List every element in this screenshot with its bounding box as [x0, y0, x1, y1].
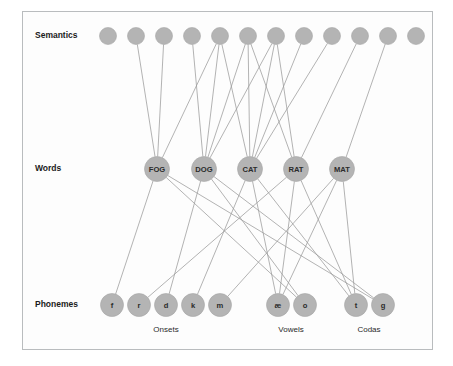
- edge-RAT-to-ae: [280, 181, 295, 293]
- edge-RAT-to-r: [148, 177, 287, 297]
- word-node-label-FOG: FOG: [149, 165, 166, 174]
- phoneme-node-label-r: r: [138, 301, 141, 310]
- word-node-label-CAT: CAT: [242, 165, 257, 174]
- edge-DOG-to-d: [169, 181, 201, 294]
- edge-s5-to-CAT: [222, 44, 247, 157]
- semantic-node-s6[interactable]: [240, 28, 257, 45]
- layer-label-phonemes: Phonemes: [35, 299, 78, 309]
- semantic-node-s10[interactable]: [352, 28, 369, 45]
- semantics-to-words-edges: [137, 43, 385, 158]
- group-labels-group: OnsetsVowelsCodas: [153, 325, 380, 334]
- word-nodes-group: FOGDOGCATRATMAT: [145, 157, 355, 182]
- edge-s5-to-FOG: [162, 44, 216, 158]
- layer-label-words: Words: [35, 163, 62, 173]
- edge-FOG-to-o: [166, 177, 296, 297]
- edge-s2-to-FOG: [137, 44, 155, 156]
- phoneme-node-label-d: d: [164, 301, 169, 310]
- phoneme-node-label-m: m: [217, 301, 224, 310]
- semantic-node-s2[interactable]: [128, 28, 145, 45]
- edge-DOG-to-o: [211, 179, 298, 296]
- edge-RAT-to-t: [301, 180, 351, 294]
- semantic-node-s8[interactable]: [296, 28, 313, 45]
- edge-s6-to-DOG: [208, 44, 245, 157]
- layer-label-semantics: Semantics: [35, 30, 78, 40]
- semantic-node-s7[interactable]: [268, 28, 285, 45]
- edge-CAT-to-ae: [253, 181, 276, 293]
- words-to-phonemes-edges: [116, 175, 374, 299]
- semantic-node-s3[interactable]: [156, 28, 173, 45]
- edge-FOG-to-f: [116, 181, 153, 294]
- edge-s11-to-MAT: [346, 44, 385, 157]
- edge-MAT-to-t: [343, 181, 355, 293]
- edge-s4-to-DOG: [193, 44, 203, 156]
- semantic-node-s5[interactable]: [212, 28, 229, 45]
- edge-MAT-to-ae: [283, 180, 337, 294]
- group-label-onsets: Onsets: [153, 325, 178, 334]
- edge-MAT-to-m: [228, 178, 334, 296]
- semantic-node-s9[interactable]: [324, 28, 341, 45]
- edge-s8-to-CAT: [255, 44, 301, 158]
- semantic-node-s11[interactable]: [380, 28, 397, 45]
- phoneme-node-label-ae: æ: [275, 301, 282, 310]
- group-label-codas: Codas: [357, 325, 380, 334]
- semantic-node-s12[interactable]: [408, 28, 425, 45]
- edge-s3-to-FOG: [158, 44, 164, 156]
- edge-s6-to-CAT: [248, 44, 250, 156]
- edge-s10-to-RAT: [301, 44, 356, 158]
- edge-FOG-to-g: [168, 175, 373, 299]
- semantic-node-s1[interactable]: [100, 28, 117, 45]
- network-diagram: FOGDOGCATRATMAT frdkmæotg SemanticsWords…: [0, 0, 453, 366]
- word-node-label-MAT: MAT: [334, 165, 350, 174]
- word-node-label-DOG: DOG: [195, 165, 212, 174]
- phoneme-nodes-group: frdkmæotg: [101, 294, 395, 317]
- group-label-vowels: Vowels: [278, 325, 303, 334]
- semantic-node-s4[interactable]: [184, 28, 201, 45]
- edge-DOG-to-g: [214, 177, 374, 298]
- figure-root: FOGDOGCATRATMAT frdkmæotg SemanticsWords…: [0, 0, 453, 366]
- word-node-label-RAT: RAT: [288, 165, 303, 174]
- edge-s7-to-DOG: [210, 43, 272, 158]
- semantic-nodes-group: [100, 28, 425, 45]
- phoneme-node-label-g: g: [381, 301, 386, 310]
- layer-labels-group: SemanticsWordsPhonemes: [35, 30, 78, 309]
- edge-s5-to-DOG: [205, 44, 218, 156]
- phoneme-node-label-o: o: [303, 301, 308, 310]
